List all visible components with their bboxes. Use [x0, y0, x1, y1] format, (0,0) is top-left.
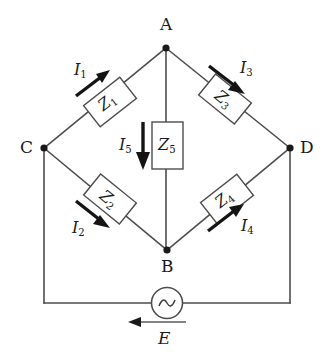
current-sub-i5: 5 — [125, 144, 131, 155]
component-letter-z5: Z — [158, 135, 169, 154]
emf-reference-arrow — [128, 317, 186, 327]
node-label-a: A — [160, 16, 172, 33]
node-label-c: C — [20, 139, 33, 156]
current-sub-i4: 4 — [247, 225, 253, 236]
node-dot-c — [40, 144, 47, 151]
component-sub-z5: 5 — [169, 144, 175, 155]
current-label-i1: I1 — [74, 62, 87, 80]
current-label-i3: I3 — [240, 60, 253, 78]
node-label-d: D — [300, 139, 314, 156]
node-label-b: B — [161, 258, 174, 275]
current-sub-i1: 1 — [80, 69, 86, 80]
current-sub-i3: 3 — [246, 67, 252, 78]
node-dot-d — [286, 144, 293, 151]
node-dot-b — [163, 246, 170, 253]
source-label-e: E — [158, 330, 170, 347]
component-label-z5: Z5 — [158, 137, 176, 155]
circuit-canvas — [0, 0, 328, 362]
current-label-i2: I2 — [72, 220, 85, 238]
current-arrow-i5 — [136, 122, 150, 170]
circuit-diagram: A B C D Z1 Z2 Z3 Z4 Z5 I1 I2 I3 I4 I5 E — [0, 0, 328, 362]
current-label-i4: I4 — [241, 218, 254, 236]
current-label-i5: I5 — [119, 137, 132, 155]
node-dot-a — [162, 44, 169, 51]
current-sub-i2: 2 — [78, 227, 84, 238]
ac-source-symbol[interactable] — [152, 288, 183, 319]
